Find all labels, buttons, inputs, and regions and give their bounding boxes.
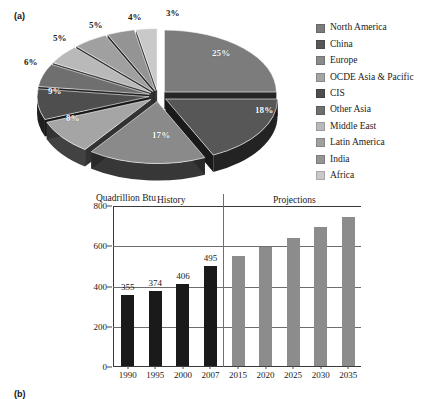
x-axis-tick-mark [210,366,211,369]
legend-swatch-icon [316,122,325,131]
y-axis-tick-mark [107,206,112,207]
bar-value-label: 355 [121,282,135,292]
bar-2035[interactable]: 2035 [342,217,355,366]
x-axis-tick-mark [293,366,294,369]
panel-a-pie-chart: (a) 25% 18% 17% 9% 8% 6% 5% 5% 4% 3% Nor… [0,0,444,190]
bar-2030[interactable]: 2030 [314,227,327,366]
x-axis-tick-label: 1995 [146,370,164,380]
bar-2007[interactable]: 4952007 [204,266,217,366]
bar-value-label: 406 [176,271,190,281]
pie-value-cis: 8% [66,113,80,123]
legend-swatch-icon [316,89,325,98]
x-axis-tick-label: 2015 [229,370,247,380]
legend-swatch-icon [316,24,325,33]
bar-1990[interactable]: 3551990 [121,295,134,366]
y-axis-tick-label: 400 [94,282,108,292]
y-axis-tick-mark [107,367,112,368]
legend-item-label: China [330,40,353,50]
x-axis-tick-label: 2007 [201,370,219,380]
legend-swatch-icon [316,171,325,180]
legend-swatch-icon [316,155,325,164]
pie-value-africa: 3% [166,8,180,18]
pie-value-ocde: 9% [48,86,62,96]
legend-item-label: Europe [330,56,357,66]
x-axis-tick-mark [238,366,239,369]
pie-value-india: 4% [128,12,142,22]
x-axis-tick-mark [348,366,349,369]
legend-swatch-icon [316,56,325,65]
legend-item-label: OCDE Asia & Pacific [330,73,414,83]
projections-section-label: Projections [273,195,316,205]
legend-item-label: Latin America [330,138,385,148]
x-axis-tick-label: 2025 [284,370,302,380]
legend-swatch-icon [316,40,325,49]
gridline [113,206,361,207]
x-axis-tick-mark [265,366,266,369]
pie-value-middle-east: 5% [53,33,67,43]
y-axis-tick-mark [107,246,112,247]
y-axis-tick-label: 600 [94,241,108,251]
legend-item[interactable]: China [316,36,442,52]
legend-item-label: North America [330,23,387,33]
panel-b-label: (b) [14,389,26,399]
pie-value-europe: 17% [152,130,170,140]
pie-value-other-asia: 6% [24,57,38,67]
pie-value-north-america: 25% [212,48,230,58]
y-axis-tick-label: 0 [103,362,108,372]
legend-item[interactable]: Latin America [316,135,442,151]
bar-1995[interactable]: 3741995 [149,291,162,366]
legend-item[interactable]: Europe [316,53,442,69]
legend-swatch-icon [316,106,325,115]
x-axis-tick-mark [182,366,183,369]
legend-item[interactable]: Africa [316,168,442,184]
history-projection-divider [223,194,224,367]
legend-item-label: Africa [330,171,354,181]
y-axis-tick-mark [107,326,112,327]
legend-swatch-icon [316,73,325,82]
pie-value-latin-america: 5% [89,20,103,30]
legend-item-label: Other Asia [330,105,371,115]
pie-legend: North AmericaChinaEuropeOCDE Asia & Paci… [316,20,442,184]
bar-2020[interactable]: 2020 [259,247,272,366]
bar-value-label: 495 [204,253,218,263]
legend-item-label: CIS [330,89,345,99]
legend-item[interactable]: Middle East [316,118,442,134]
panel-b-bar-chart: (b) Quadrillion Btu 0200400600800 Histor… [0,190,444,395]
x-axis-tick-label: 2035 [339,370,357,380]
x-axis-tick-mark [155,366,156,369]
legend-item[interactable]: OCDE Asia & Pacific [316,69,442,85]
x-axis-tick-label: 2000 [174,370,192,380]
bar-2015[interactable]: 2015 [232,256,245,366]
x-axis-tick-mark [320,366,321,369]
legend-swatch-icon [316,138,325,147]
bar-2000[interactable]: 4062000 [176,284,189,366]
legend-item-label: India [330,155,350,165]
legend-item[interactable]: North America [316,20,442,36]
bar-plot-area: 0200400600800 History Projections 355199… [113,206,361,367]
x-axis-tick-mark [127,366,128,369]
pie-slice-north-america[interactable] [164,30,276,92]
y-axis-tick-label: 800 [94,201,108,211]
y-axis-tick-mark [107,286,112,287]
legend-item[interactable]: Other Asia [316,102,442,118]
y-axis-tick-label: 200 [94,322,108,332]
pie-value-china: 18% [255,105,273,115]
legend-item[interactable]: CIS [316,86,442,102]
bar-2025[interactable]: 2025 [287,238,300,366]
bar-value-label: 374 [149,278,163,288]
history-section-label: History [157,195,186,205]
x-axis-tick-label: 2030 [312,370,330,380]
x-axis-tick-label: 2020 [257,370,275,380]
x-axis-tick-label: 1990 [119,370,137,380]
legend-item[interactable]: India [316,151,442,167]
legend-item-label: Middle East [330,122,376,132]
